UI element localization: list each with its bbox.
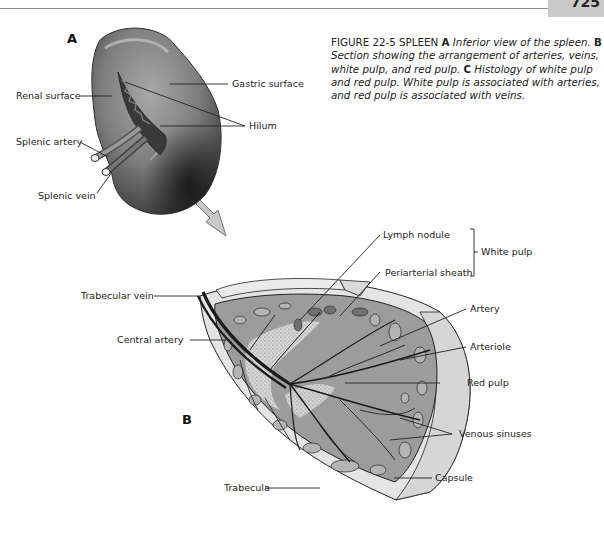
label-lymph-nodule: Lymph nodule [383,229,450,240]
label-renal-surface: Renal surface [16,90,81,101]
label-gastric-surface: Gastric surface [232,78,304,89]
label-white-pulp: White pulp [481,246,532,257]
spleen-section [198,278,470,500]
panel-b-letter: B [182,412,192,427]
label-capsule: Capsule [435,472,473,483]
panel-a-letter: A [67,31,77,46]
figure-caption: FIGURE 22-5 SPLEEN A Inferior view of th… [331,36,604,102]
label-central-artery: Central artery [117,334,183,345]
label-arteriole: Arteriole [470,341,511,352]
caption-a-letter: A [442,36,450,48]
label-periarterial-sheath: Periarterial sheath [385,267,473,278]
label-trabecula: Trabecula [224,482,270,493]
label-hilum: Hilum [249,120,277,131]
caption-a-text: Inferior view of the spleen. [453,36,591,48]
label-venous-sinuses: Venous sinuses [459,428,532,439]
caption-b-letter: B [594,36,602,48]
label-red-pulp: Red pulp [467,377,509,388]
label-trabecular-vein: Trabecular vein [81,290,154,301]
spleen-inferior-view [91,28,226,236]
figure-title: SPLEEN [399,36,438,48]
label-splenic-artery: Splenic artery [16,136,82,147]
label-artery: Artery [470,303,500,314]
caption-c-letter: C [464,63,472,75]
figure-number: FIGURE 22-5 [331,36,396,48]
label-splenic-vein: Splenic vein [38,190,96,201]
